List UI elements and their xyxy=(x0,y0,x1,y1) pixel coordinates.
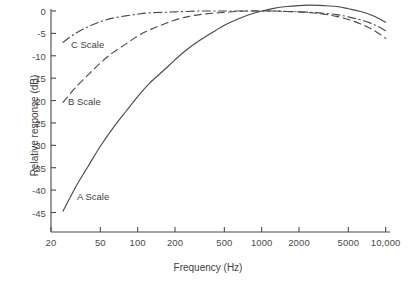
y-tick-label: -5 xyxy=(16,28,46,39)
x-tick-label: 10,000 xyxy=(371,237,401,248)
x-axis-title: Frequency (Hz) xyxy=(174,262,243,273)
series-paths xyxy=(63,5,386,211)
series-line-c-scale xyxy=(63,11,386,42)
y-tick-marks xyxy=(51,11,56,213)
chart-figure: 0-5-10-15-20-25-30-35-40-45 205010020050… xyxy=(0,0,416,286)
series-annotation-b-scale: B Scale xyxy=(68,96,101,107)
x-tick-label: 5000 xyxy=(338,237,360,248)
series-annotation-c-scale: C Scale xyxy=(71,39,104,50)
series-line-b-scale xyxy=(63,11,386,102)
y-tick-label: 0 xyxy=(16,6,46,17)
y-tick-label: -45 xyxy=(16,207,46,218)
series-annotation-a-scale: A Scale xyxy=(77,191,109,202)
series-line-a-scale xyxy=(63,5,386,211)
x-tick-label: 50 xyxy=(95,237,106,248)
x-tick-marks xyxy=(51,227,386,232)
y-axis-title: Relative response (dB) xyxy=(29,56,40,196)
x-tick-label: 500 xyxy=(216,237,232,248)
x-tick-label: 1000 xyxy=(251,237,273,248)
x-tick-label: 100 xyxy=(130,237,146,248)
x-tick-label: 200 xyxy=(167,237,183,248)
x-tick-label: 2000 xyxy=(288,237,310,248)
x-tick-label: 20 xyxy=(46,237,57,248)
